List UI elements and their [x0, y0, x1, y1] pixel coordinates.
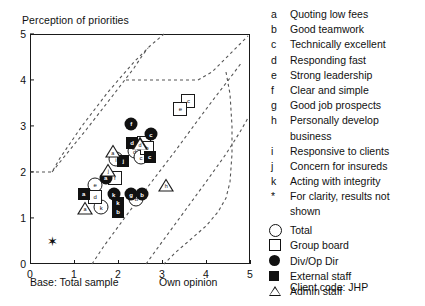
x-axis-label: Own opinion: [159, 276, 217, 288]
legend-attribute-label: For clarity, results not: [290, 190, 390, 202]
legend-attribute-key: *: [268, 190, 290, 202]
legend-attribute-key: g: [268, 99, 290, 111]
circle-icon: [268, 224, 290, 237]
legend-attribute-label-continued: shown: [268, 205, 425, 220]
legend-panel: aQuoting low feesbGood teamworkcTechnica…: [268, 8, 425, 300]
legend-attribute-row: hPersonally develop: [268, 114, 425, 129]
legend-attribute-label: Strong leadership: [290, 69, 372, 81]
attribute-key-list: aQuoting low feesbGood teamworkcTechnica…: [268, 8, 425, 221]
data-point-triangle: h: [158, 178, 174, 191]
data-point-triangle: d: [132, 137, 148, 150]
triangle-icon: [268, 286, 290, 296]
data-point-star: ✶: [47, 235, 58, 248]
legend-series-label: Total: [290, 224, 312, 236]
legend-attribute-label: Good teamwork: [290, 23, 364, 35]
legend-attribute-key: j: [268, 160, 290, 172]
legend-attribute-key: f: [268, 84, 290, 96]
square-icon: [268, 239, 290, 251]
legend-attribute-key: h: [268, 114, 290, 126]
legend-attribute-row: jConcern for insureds: [268, 160, 425, 175]
legend-attribute-label: Personally develop: [290, 114, 379, 126]
legend-attribute-key: b: [268, 23, 290, 35]
legend-attribute-row: fClear and simple: [268, 84, 425, 99]
x-tick-5: 5: [247, 268, 253, 280]
legend-series-row: Div/Op Dir: [268, 253, 425, 268]
chart-panel: Perception of priorities: [0, 0, 265, 306]
y-tick-0: 0: [20, 258, 26, 270]
legend-attribute-row: bGood teamwork: [268, 23, 425, 38]
legend-attribute-label: Clear and simple: [290, 84, 369, 96]
y-tick-4: 4: [20, 74, 26, 86]
client-code: Client code: JHP: [290, 281, 368, 293]
legend-attribute-row: kActing with integrity: [268, 175, 425, 190]
data-point-triangle: j: [100, 163, 116, 176]
data-point-triangle: a: [77, 201, 93, 214]
dot-icon: [268, 255, 290, 266]
legend-attribute-row: eStrong leadership: [268, 69, 425, 84]
legend-attribute-key: d: [268, 54, 290, 66]
chart-title: Perception of priorities: [22, 14, 129, 26]
legend-attribute-label: Acting with integrity: [290, 175, 380, 187]
filled-square-icon: [268, 271, 290, 281]
data-point-filled-square: c: [144, 151, 156, 163]
data-point-dot: f: [125, 117, 138, 130]
legend-attribute-row: iResponsive to clients: [268, 145, 425, 160]
legend-series-label: Div/Op Dir: [290, 255, 338, 267]
legend-attribute-label: Technically excellent: [290, 38, 386, 50]
data-point-filled-square: b: [112, 206, 124, 218]
legend-attribute-row: *For clarity, results not: [268, 190, 425, 205]
data-point-square: e: [173, 102, 187, 116]
legend-attribute-key: c: [268, 38, 290, 50]
base-note: Base: Total sample: [30, 276, 119, 288]
y-tick-5: 5: [20, 28, 26, 40]
legend-series-row: Group board: [268, 238, 425, 253]
legend-attribute-label: Good job prospects: [290, 99, 381, 111]
y-tick-1: 1: [20, 212, 26, 224]
legend-attribute-key: k: [268, 175, 290, 187]
legend-attribute-label: Quoting low fees: [290, 8, 368, 20]
y-tick-2: 2: [20, 166, 26, 178]
data-point-dot: b: [136, 188, 149, 201]
legend-attribute-label: Responding fast: [290, 54, 366, 66]
legend-attribute-key: e: [268, 69, 290, 81]
legend-series-label: Group board: [290, 239, 349, 251]
legend-attribute-label: Concern for insureds: [290, 160, 387, 172]
legend-series-label: External staff: [290, 270, 351, 282]
legend-attribute-row: gGood job prospects: [268, 99, 425, 114]
legend-attribute-row: dResponding fast: [268, 54, 425, 69]
legend-attribute-row: aQuoting low fees: [268, 8, 425, 23]
legend-attribute-label: Responsive to clients: [290, 145, 389, 157]
y-tick-3: 3: [20, 120, 26, 132]
legend-attribute-key: a: [268, 8, 290, 20]
data-point-triangle: a: [105, 145, 121, 158]
legend-attribute-label-continued: business: [268, 130, 425, 145]
scatter-plot-area: 5 4 3 2 1 0 0 1 2 3 4 5 idcekbcedbfdfcak…: [30, 34, 250, 264]
legend-attribute-row: cTechnically excellent: [268, 38, 425, 53]
legend-series-row: Total: [268, 223, 425, 238]
legend-attribute-key: i: [268, 145, 290, 157]
data-point-filled-square: a: [78, 188, 90, 200]
